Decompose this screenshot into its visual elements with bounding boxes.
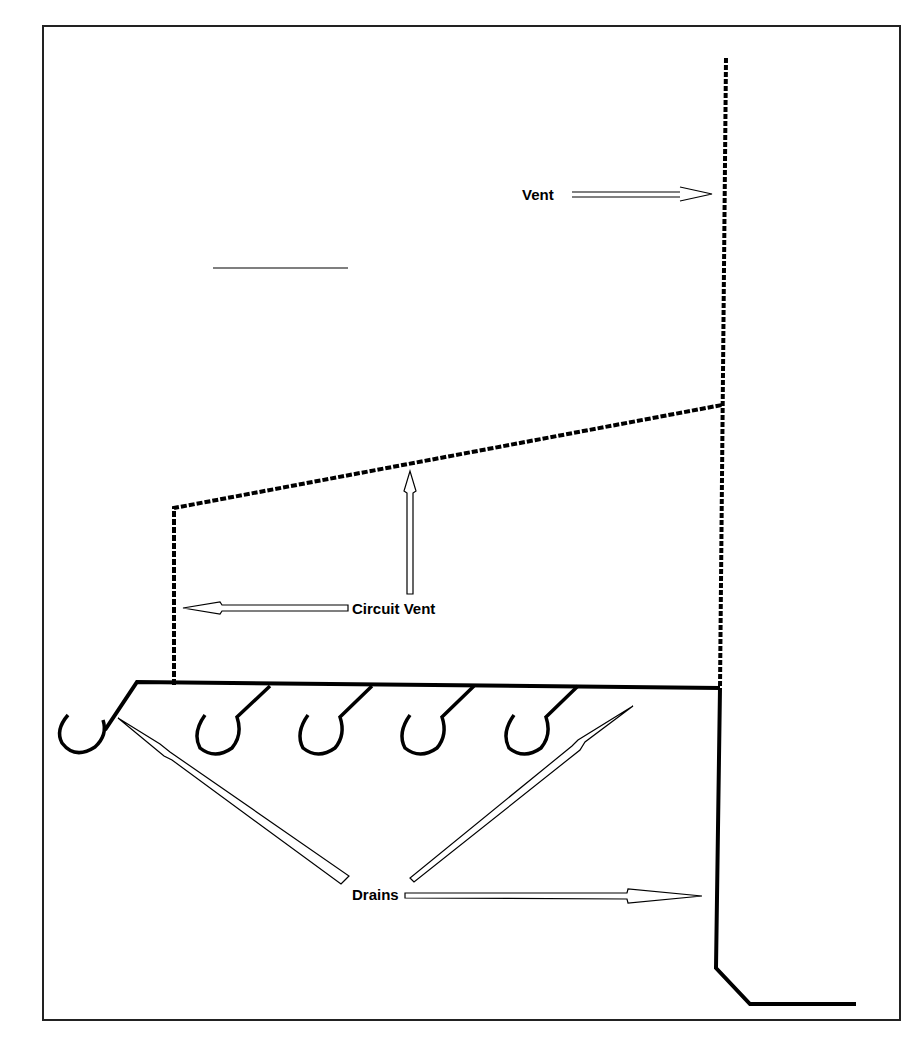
traps [60,686,578,754]
diagram-frame [43,26,900,1020]
arrows [213,187,712,268]
horizontal-drain [105,682,720,730]
circuit-vent-label: Circuit Vent [352,600,435,617]
drains-label: Drains [352,886,399,903]
trap-1 [60,715,105,753]
arrow-drains-up-left [118,718,349,884]
vent-stack [720,58,726,688]
arrow-drains-right [405,889,702,903]
drain-stack [716,688,856,1004]
arrow-circuit-vent-up [404,471,416,594]
venting-diagram: Vent Circuit Vent Drains [0,0,918,1058]
circuit-vent-line [174,405,722,685]
vent-label: Vent [522,186,554,203]
arrow-vent [572,187,712,201]
arrow-circuit-vent-left [183,602,348,614]
